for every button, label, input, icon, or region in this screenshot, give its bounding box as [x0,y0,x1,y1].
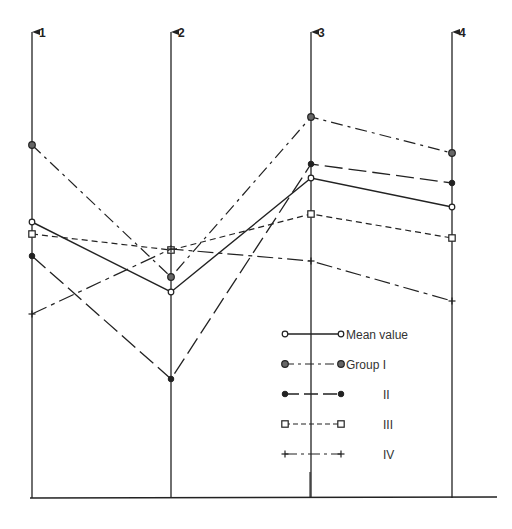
dotted-circle-marker-icon [338,361,345,368]
axis-4: 4 [452,26,466,498]
plus-marker-icon [29,311,36,318]
filled-circle-marker-icon [308,161,314,167]
filled-circle-marker-icon [449,180,455,186]
series-line [32,164,452,379]
dotted-circle-marker-icon [308,114,315,121]
dotted-circle-marker-icon [282,361,289,368]
legend-label: Group I [346,358,386,372]
legend-item-group-i: Group I [282,358,386,372]
series-iii [29,211,455,253]
series-mean-value [29,175,455,295]
legend-label: II [383,388,390,402]
filled-circle-marker-icon [282,391,288,397]
dotted-circle-marker-icon [449,150,456,157]
plus-marker-icon [282,451,289,458]
legend-item-ii: II [282,388,389,402]
legend-label: IV [383,448,394,462]
legend-label: III [383,418,393,432]
plus-marker-icon [338,451,345,458]
filled-circle-marker-icon [168,376,174,382]
axis-2: 2 [171,26,185,498]
axis-label: 3 [318,26,325,40]
axis-label: 4 [459,26,466,40]
legend-item-iv: IV [282,448,395,462]
dotted-circle-marker-icon [29,142,36,149]
baseline [30,497,497,498]
open-square-marker-icon [449,235,455,241]
series-line [32,214,452,250]
plus-marker-icon [308,258,315,265]
open-circle-marker-icon [282,331,288,337]
series-iv [29,246,456,318]
open-circle-marker-icon [168,289,174,295]
open-square-marker-icon [29,231,35,237]
filled-circle-marker-icon [338,391,344,397]
plus-marker-icon [449,298,456,305]
open-circle-marker-icon [338,331,344,337]
axis-3: 3 [311,26,325,498]
legend-item-iii: III [282,418,393,432]
legend-label: Mean value [346,328,408,342]
filled-circle-marker-icon [29,253,35,259]
legend: Mean valueGroup IIIIIIIV [282,328,409,462]
open-circle-marker-icon [449,204,455,210]
open-circle-marker-icon [308,175,314,181]
axis-label: 2 [178,26,185,40]
legend-item-mean-value: Mean value [282,328,408,342]
axes: 1234 [32,26,466,498]
open-square-marker-icon [308,211,314,217]
dotted-circle-marker-icon [168,274,175,281]
series-lines [29,114,456,382]
open-circle-marker-icon [29,219,35,225]
open-square-marker-icon [338,421,344,427]
open-square-marker-icon [282,421,288,427]
parallel-coordinates-chart: 1234 Mean valueGroup IIIIIIIV [0,0,512,529]
axis-label: 1 [39,26,46,40]
series-line [32,249,452,314]
